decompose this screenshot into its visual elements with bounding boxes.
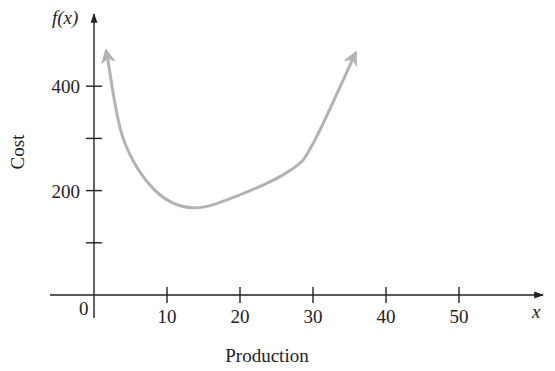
cost-curve [108, 53, 355, 208]
x-tick-label: 40 [377, 306, 396, 327]
x-axis-ticks: 1020304050 [158, 287, 469, 327]
origin-label: 0 [79, 298, 89, 319]
cost-function-chart: 200400 1020304050 0 f(x) x Cost Producti… [0, 0, 555, 371]
y-tick-label: 400 [52, 76, 81, 97]
x-tick-label: 10 [158, 306, 177, 327]
y-axis-variable-label: f(x) [52, 7, 78, 29]
x-axis-title: Production [225, 345, 309, 366]
y-axis-title: Cost [7, 134, 28, 170]
x-tick-label: 20 [231, 306, 250, 327]
x-tick-label: 50 [450, 306, 469, 327]
y-tick-label: 200 [52, 181, 81, 202]
x-axis-variable-label: x [531, 301, 541, 322]
x-tick-label: 30 [304, 306, 323, 327]
